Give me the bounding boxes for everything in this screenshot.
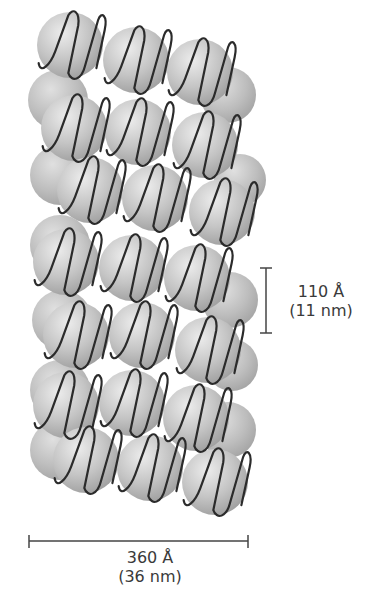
horizontal-scale-angstrom: 360 Å — [90, 548, 210, 567]
vertical-scale-angstrom: 110 Å — [276, 282, 366, 301]
horizontal-scale-nm: (36 nm) — [90, 567, 210, 586]
horizontal-scale-bar — [29, 535, 248, 548]
vertical-scale-label: 110 Å (11 nm) — [276, 282, 366, 320]
vertical-scale-nm: (11 nm) — [276, 301, 366, 320]
horizontal-scale-label: 360 Å (36 nm) — [90, 548, 210, 586]
vertical-scale-bar — [260, 268, 272, 333]
